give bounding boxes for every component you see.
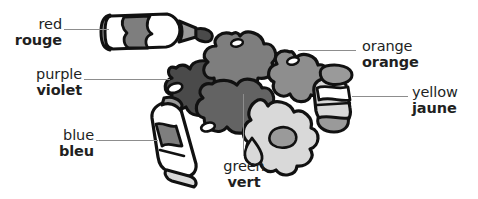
illustration-figure: red rouge purple violet blue bleu orange… — [0, 0, 478, 199]
red-tube-neck — [179, 21, 196, 42]
label-yellow: yellow jaune — [412, 84, 476, 116]
yellow-blob-inner-shade — [269, 127, 296, 148]
label-blue-english: blue — [36, 127, 94, 143]
label-green-english: green — [216, 158, 272, 174]
red-paint-tube — [101, 14, 212, 50]
label-orange-french: orange — [362, 54, 442, 70]
label-blue-french: bleu — [36, 143, 94, 159]
orange-paint-tube — [314, 65, 352, 132]
label-purple: purple violet — [4, 66, 82, 98]
leader-line-purple — [84, 79, 170, 80]
leader-line-orange — [298, 50, 356, 51]
label-green-french: vert — [216, 174, 272, 190]
leader-line-blue — [96, 140, 158, 141]
label-yellow-french: jaune — [412, 100, 476, 116]
label-purple-french: violet — [4, 82, 82, 98]
label-orange: orange orange — [362, 38, 442, 70]
label-yellow-english: yellow — [412, 84, 476, 100]
leader-line-yellow — [352, 96, 408, 97]
label-purple-english: purple — [4, 66, 82, 82]
label-red-french: rouge — [4, 32, 62, 48]
orange-tube-cap — [320, 65, 352, 85]
label-red-english: red — [4, 16, 62, 32]
label-green: green vert — [216, 158, 272, 190]
leader-line-green — [243, 94, 244, 156]
red-tube-extruded-paint — [196, 29, 212, 42]
orange-tube-white-band — [317, 87, 350, 101]
label-blue: blue bleu — [36, 127, 94, 159]
leader-line-red — [64, 29, 109, 30]
orange-tube-crimp — [318, 117, 349, 132]
label-red: red rouge — [4, 16, 62, 48]
label-orange-english: orange — [362, 38, 442, 54]
